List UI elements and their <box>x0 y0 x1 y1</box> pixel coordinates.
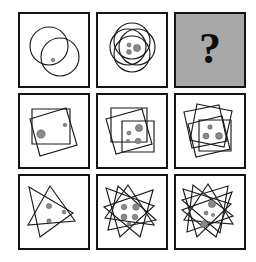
dot <box>121 204 126 209</box>
dot <box>121 214 127 220</box>
dot <box>63 123 67 127</box>
triangle-shape <box>105 185 154 225</box>
dot <box>62 210 66 214</box>
dot <box>127 222 131 226</box>
dot <box>127 43 131 47</box>
dot <box>135 138 141 144</box>
question-mark: ? <box>176 14 244 86</box>
matrix-cell-5[interactable] <box>96 93 168 169</box>
dot <box>208 200 215 207</box>
circle-shape <box>41 38 79 76</box>
dot <box>46 203 51 208</box>
dot <box>37 130 45 138</box>
cell-4-figure <box>20 95 88 167</box>
matrix-cell-3-unknown[interactable]: ? <box>174 12 246 88</box>
dot <box>127 131 131 135</box>
dot <box>126 139 129 142</box>
dot <box>135 124 142 131</box>
matrix-cell-7[interactable] <box>18 174 90 250</box>
matrix-grid: ? <box>18 12 246 251</box>
cell-8-figure <box>98 176 166 248</box>
cell-7-figure <box>20 176 88 248</box>
matrix-cell-1[interactable] <box>18 12 90 88</box>
square-shape <box>184 105 227 148</box>
matrix-cell-9[interactable] <box>174 174 246 250</box>
matrix-cell-4[interactable] <box>18 93 90 169</box>
dot <box>132 214 138 220</box>
cell-9-figure <box>176 176 244 248</box>
dot <box>201 221 208 228</box>
dot <box>208 125 212 129</box>
matrix-cell-6[interactable] <box>174 93 246 169</box>
dot <box>133 44 140 51</box>
dot <box>216 133 223 140</box>
cell-2-figure <box>98 14 166 86</box>
cell-1-figure <box>20 14 88 86</box>
matrix-puzzle: ? <box>0 0 256 262</box>
dot <box>204 211 208 215</box>
dot <box>133 204 140 211</box>
dot <box>127 50 132 55</box>
dot <box>211 213 214 216</box>
cell-6-figure <box>176 95 244 167</box>
dot <box>51 58 54 61</box>
circle-shape <box>30 27 68 65</box>
matrix-cell-2[interactable] <box>96 12 168 88</box>
dot <box>47 219 51 223</box>
cell-5-figure <box>98 95 166 167</box>
dot <box>203 133 209 139</box>
matrix-cell-8[interactable] <box>96 174 168 250</box>
triangle-shape <box>108 186 156 230</box>
